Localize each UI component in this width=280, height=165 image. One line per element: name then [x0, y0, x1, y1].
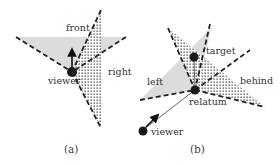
panel-b: target left behind relatum viewer (b): [139, 24, 274, 155]
label-target: target: [206, 45, 236, 56]
caption-a: (a): [64, 143, 78, 155]
label-behind: behind: [240, 75, 273, 86]
target-dot: [190, 53, 199, 62]
label-front: front: [66, 22, 90, 33]
viewer-dot-b: [139, 127, 148, 136]
caption-b: (b): [190, 143, 205, 155]
label-viewer: viewer: [47, 75, 81, 86]
label-viewer-b: viewer: [150, 126, 184, 137]
label-right: right: [108, 66, 132, 77]
label-relatum: relatum: [189, 96, 227, 107]
label-left: left: [147, 76, 163, 87]
panel-a: front right viewer (a): [16, 10, 132, 155]
relatum-dot: [191, 86, 200, 95]
diagram: front right viewer (a) target left behin…: [0, 0, 280, 165]
